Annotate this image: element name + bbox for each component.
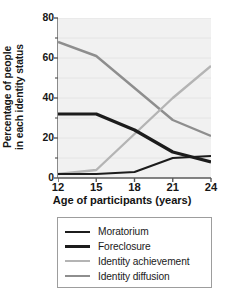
legend-items: MoratoriumForeclosureIdentity achievemen…: [58, 218, 211, 284]
legend-label: Identity achievement: [98, 256, 189, 267]
y-axis-title: Percentage of people in each identity st…: [2, 4, 25, 190]
plot-area: [58, 18, 211, 178]
legend-label: Moratorium: [98, 226, 149, 237]
legend-label: Foreclosure: [98, 241, 151, 252]
legend-line-swatch: [65, 257, 90, 267]
legend-item[interactable]: Moratorium: [65, 224, 211, 239]
x-axis-spine-and-ticks: [58, 177, 215, 185]
y-axis-title-container: Percentage of people in each identity st…: [0, 0, 34, 196]
x-axis-title: Age of participants (years): [22, 194, 222, 206]
legend-item[interactable]: Identity diffusion: [65, 269, 211, 284]
legend-line-swatch: [65, 272, 90, 282]
legend-item[interactable]: Foreclosure: [65, 239, 211, 254]
legend: MoratoriumForeclosureIdentity achievemen…: [57, 217, 212, 288]
legend-label: Identity diffusion: [98, 271, 170, 282]
legend-line-swatch: [65, 227, 90, 237]
series-line: [58, 42, 211, 136]
identity-status-line-chart: Percentage of people in each identity st…: [0, 0, 232, 298]
y-axis-title-line-1: Percentage of people: [2, 46, 13, 148]
axis-spines-and-ticks: [34, 8, 60, 190]
legend-line-swatch: [65, 242, 90, 252]
series-lines: [58, 18, 211, 178]
legend-item[interactable]: Identity achievement: [65, 254, 211, 269]
y-axis-title-line-2: in each identity status: [14, 44, 25, 150]
